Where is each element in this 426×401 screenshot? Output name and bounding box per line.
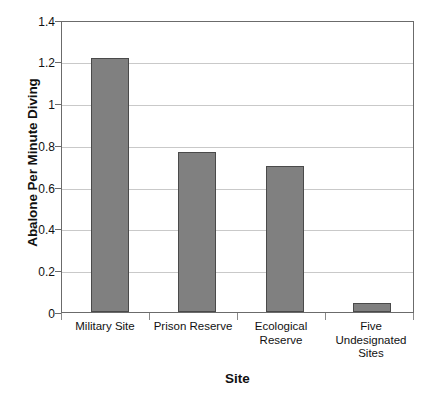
x-tick-sep-1 (149, 313, 150, 320)
x-category-line: Military Site (61, 320, 149, 334)
y-tick-label-1: 1 (9, 99, 55, 111)
x-category-label-five-undesignated-sites: Five Undesignated Sites (325, 320, 417, 361)
x-category-label-military-site: Military Site (61, 320, 149, 334)
y-tick-label-0.2: 0.2 (9, 266, 55, 278)
plot-area (61, 21, 414, 313)
bar-military-site[interactable] (91, 58, 129, 312)
x-category-label-prison-reserve: Prison Reserve (149, 320, 237, 334)
x-category-label-ecological-reserve: Ecological Reserve (237, 320, 325, 347)
bar-prison-reserve[interactable] (178, 152, 216, 312)
x-category-line: Undesignated (325, 334, 417, 348)
bar-ecological-reserve[interactable] (266, 166, 304, 312)
x-category-line: Ecological (237, 320, 325, 334)
bar-chart-figure: Abalone Per Minute Diving 1.4 1.2 1 0.8 … (0, 0, 426, 401)
y-tick-label-1.2: 1.2 (9, 57, 55, 69)
bar-five-undesignated-sites[interactable] (353, 303, 391, 312)
y-tick-label-1.4: 1.4 (9, 16, 55, 28)
x-tick-sep-2 (237, 313, 238, 320)
x-tick-sep-0 (61, 313, 62, 320)
x-category-line: Prison Reserve (149, 320, 237, 334)
y-tick-label-0.4: 0.4 (9, 224, 55, 236)
x-tick-sep-4 (413, 313, 414, 320)
x-axis-title: Site (61, 371, 414, 386)
y-tick-label-0.6: 0.6 (9, 183, 55, 195)
x-category-line: Five (325, 320, 417, 334)
x-category-line: Sites (325, 347, 417, 361)
y-tick-label-0: 0 (9, 308, 55, 320)
x-category-line: Reserve (237, 334, 325, 348)
y-tick-label-0.8: 0.8 (9, 141, 55, 153)
x-tick-sep-3 (325, 313, 326, 320)
